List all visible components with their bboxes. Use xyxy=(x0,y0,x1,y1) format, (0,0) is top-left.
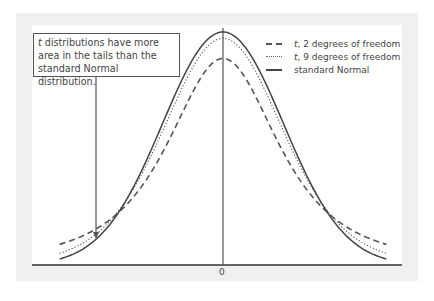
legend-item-t2: t, 2 degrees of freedom xyxy=(266,37,400,50)
annotation-line-1: distributions have more xyxy=(42,37,159,48)
annotation-box: t distributions have more area in the ta… xyxy=(33,33,180,77)
annotation-line-3: standard Normal distribution. xyxy=(38,62,175,88)
legend-label-t2: t, 2 degrees of freedom xyxy=(294,39,400,49)
legend-swatch-solid xyxy=(266,69,282,71)
x-tick-label-0: 0 xyxy=(219,267,225,277)
legend-swatch-dotted xyxy=(266,56,282,57)
legend-item-normal: standard Normal xyxy=(266,63,400,76)
legend-label-t9: t, 9 degrees of freedom xyxy=(294,52,400,62)
legend: t, 2 degrees of freedom t, 9 degrees of … xyxy=(266,37,400,76)
legend-swatch-dashed xyxy=(266,43,282,45)
annotation-line-2: area in the tails than the xyxy=(38,49,175,62)
legend-item-t9: t, 9 degrees of freedom xyxy=(266,50,400,63)
legend-label-normal: standard Normal xyxy=(294,65,369,75)
